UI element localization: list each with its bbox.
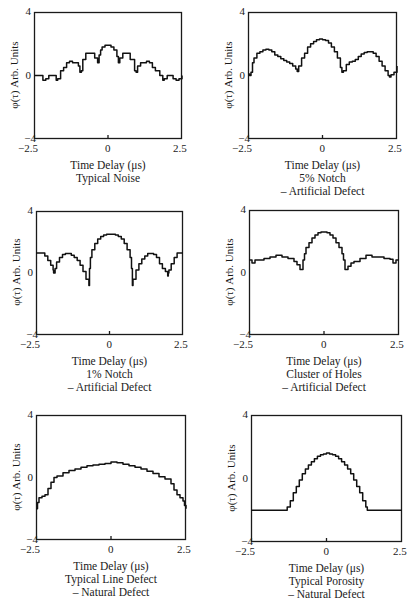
y-tick-zero: 0 [240,70,246,81]
y-tick-max: 4 [28,409,34,420]
chart-panel-p2: 4 0 −4 −2.5 0 2.5 φ(τ) Arb. Units Time D… [248,12,397,139]
x-tick-zero: 0 [324,546,330,557]
y-tick-zero: 0 [26,70,32,81]
plot-area [249,210,399,335]
chart-panel-p3: 4 0 −4 −2.5 0 2.5 φ(τ) Arb. Units Time D… [36,211,183,335]
panel-subtitle: – Artificial Defect [36,381,183,394]
panel-caption: Time Delay (μs) Typical Noise [34,159,182,185]
y-tick-max: 4 [26,6,32,17]
x-tick-min: −2.5 [20,339,40,350]
correlation-curve [34,45,182,80]
x-axis-label: Time Delay (μs) [248,159,397,172]
plot-area [36,415,186,540]
y-tick-max: 4 [240,6,246,17]
panel-title: Typical Porosity [251,575,402,588]
chart-panel-p5: 4 0 −4 −2.5 0 2.5 φ(τ) Arb. Units Time D… [36,415,186,540]
plot-area [248,12,397,139]
y-axis-label: φ(τ) Arb. Units [223,222,235,322]
panel-title: 5% Notch [248,172,397,185]
chart-panel-p4: 4 0 −4 −2.5 0 2.5 φ(τ) Arb. Units Time D… [249,210,399,335]
panel-caption: Time Delay (μs) Typical Line Defect – Na… [36,560,186,599]
y-tick-zero: 0 [28,472,34,483]
y-tick-zero: 0 [243,473,249,484]
plot-area [34,12,182,139]
x-tick-zero: 0 [108,544,114,555]
plot-area [36,211,183,335]
y-axis-label: φ(τ) Arb. Units [8,25,20,125]
correlation-curve [249,232,399,270]
correlation-curve [36,462,186,509]
x-tick-max: 2.5 [177,544,191,555]
panel-subtitle: – Artificial Defect [249,381,399,394]
plot-frame [252,416,402,542]
y-tick-zero: 0 [241,267,247,278]
y-tick-max: 4 [243,409,249,420]
plot-frame [37,416,186,540]
x-tick-max: 2.5 [173,143,187,154]
y-axis-label: φ(τ) Arb. Units [10,222,22,322]
y-axis-label: φ(τ) Arb. Units [225,428,237,528]
plot-frame [37,212,183,335]
panel-subtitle: – Natural Defect [36,586,186,599]
x-tick-max: 2.5 [174,339,188,350]
y-tick-max: 4 [28,205,34,216]
panel-caption: Time Delay (μs) Typical Porosity – Natur… [251,562,402,601]
x-tick-max: 2.5 [393,546,407,557]
x-tick-min: −2.5 [232,143,252,154]
panel-caption: Time Delay (μs) 5% Notch – Artificial De… [248,159,397,198]
panel-title: Typical Noise [34,172,182,185]
correlation-curve [248,39,397,77]
x-tick-min: −2.5 [233,339,253,350]
y-axis-label: φ(τ) Arb. Units [10,427,22,527]
panel-subtitle: – Natural Defect [251,588,402,601]
panel-caption: Time Delay (μs) Cluster of Holes – Artif… [249,355,399,394]
panel-caption: Time Delay (μs) 1% Notch – Artificial De… [36,355,183,394]
panel-title: Cluster of Holes [249,368,399,381]
plot-frame [249,13,397,139]
plot-area [251,415,402,542]
y-axis-label: φ(τ) Arb. Units [222,25,234,125]
x-tick-min: −2.5 [18,143,38,154]
x-tick-zero: 0 [321,339,327,350]
x-tick-zero: 0 [107,339,113,350]
correlation-curve [36,234,183,285]
panel-title: 1% Notch [36,368,183,381]
y-tick-zero: 0 [28,267,34,278]
plot-frame [250,211,399,335]
x-axis-label: Time Delay (μs) [36,355,183,368]
chart-panel-p6: 4 0 −4 −2.5 0 2.5 φ(τ) Arb. Units Time D… [251,415,402,542]
x-tick-min: −2.5 [20,544,40,555]
x-axis-label: Time Delay (μs) [36,560,186,573]
y-tick-max: 4 [241,204,247,215]
panel-subtitle: – Artificial Defect [248,185,397,198]
x-tick-zero: 0 [105,143,111,154]
panel-title: Typical Line Defect [36,573,186,586]
x-axis-label: Time Delay (μs) [249,355,399,368]
x-tick-max: 2.5 [388,143,402,154]
x-tick-max: 2.5 [390,339,404,350]
x-tick-zero: 0 [320,143,326,154]
chart-panel-p1: 4 0 −4 −2.5 0 2.5 φ(τ) Arb. Units Time D… [34,12,182,139]
x-axis-label: Time Delay (μs) [34,159,182,172]
x-tick-min: −2.5 [235,546,255,557]
correlation-curve [251,453,402,510]
x-axis-label: Time Delay (μs) [251,562,402,575]
